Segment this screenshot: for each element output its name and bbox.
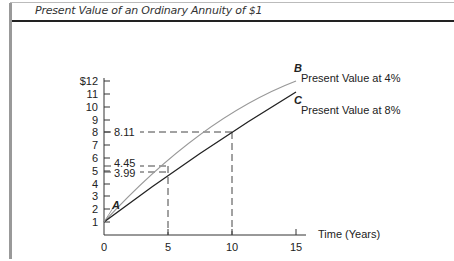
svg-text:10: 10: [226, 241, 238, 253]
x-axis-label: Time (Years): [318, 228, 380, 240]
x-tick-labels: 0 5 10 15: [101, 241, 302, 253]
svg-text:$12: $12: [80, 75, 98, 87]
svg-text:8: 8: [92, 126, 98, 138]
svg-text:Present Value at 8%: Present Value at 8%: [301, 104, 401, 116]
value-labels: 8.11 4.45 3.99: [112, 125, 140, 179]
chart-plot: 1 2 3 4 5 6 7 8 9 10 11 $12 0 5 10 15 Ti…: [0, 0, 454, 261]
y-ticks: [104, 81, 110, 222]
svg-text:5: 5: [92, 165, 98, 177]
legend-labels: Present Value at 4% Present Value at 8%: [301, 72, 401, 116]
svg-text:7: 7: [92, 139, 98, 151]
dashed-guides: [104, 132, 232, 235]
svg-text:11: 11: [87, 88, 98, 100]
svg-text:10: 10: [86, 101, 98, 113]
svg-text:2: 2: [92, 203, 98, 215]
y-tick-labels: 1 2 3 4 5 6 7 8 9 10 11 $12: [80, 75, 98, 228]
svg-text:9: 9: [92, 114, 98, 126]
svg-text:1: 1: [92, 216, 98, 228]
svg-text:3.99: 3.99: [114, 167, 135, 179]
svg-text:Present Value at 4%: Present Value at 4%: [301, 72, 401, 84]
svg-text:15: 15: [290, 241, 302, 253]
svg-text:6: 6: [92, 152, 98, 164]
svg-text:4: 4: [92, 178, 98, 190]
svg-text:0: 0: [101, 241, 107, 253]
svg-text:5: 5: [165, 241, 171, 253]
svg-text:8.11: 8.11: [114, 126, 135, 138]
svg-text:A: A: [111, 199, 120, 211]
svg-text:3: 3: [92, 190, 98, 202]
